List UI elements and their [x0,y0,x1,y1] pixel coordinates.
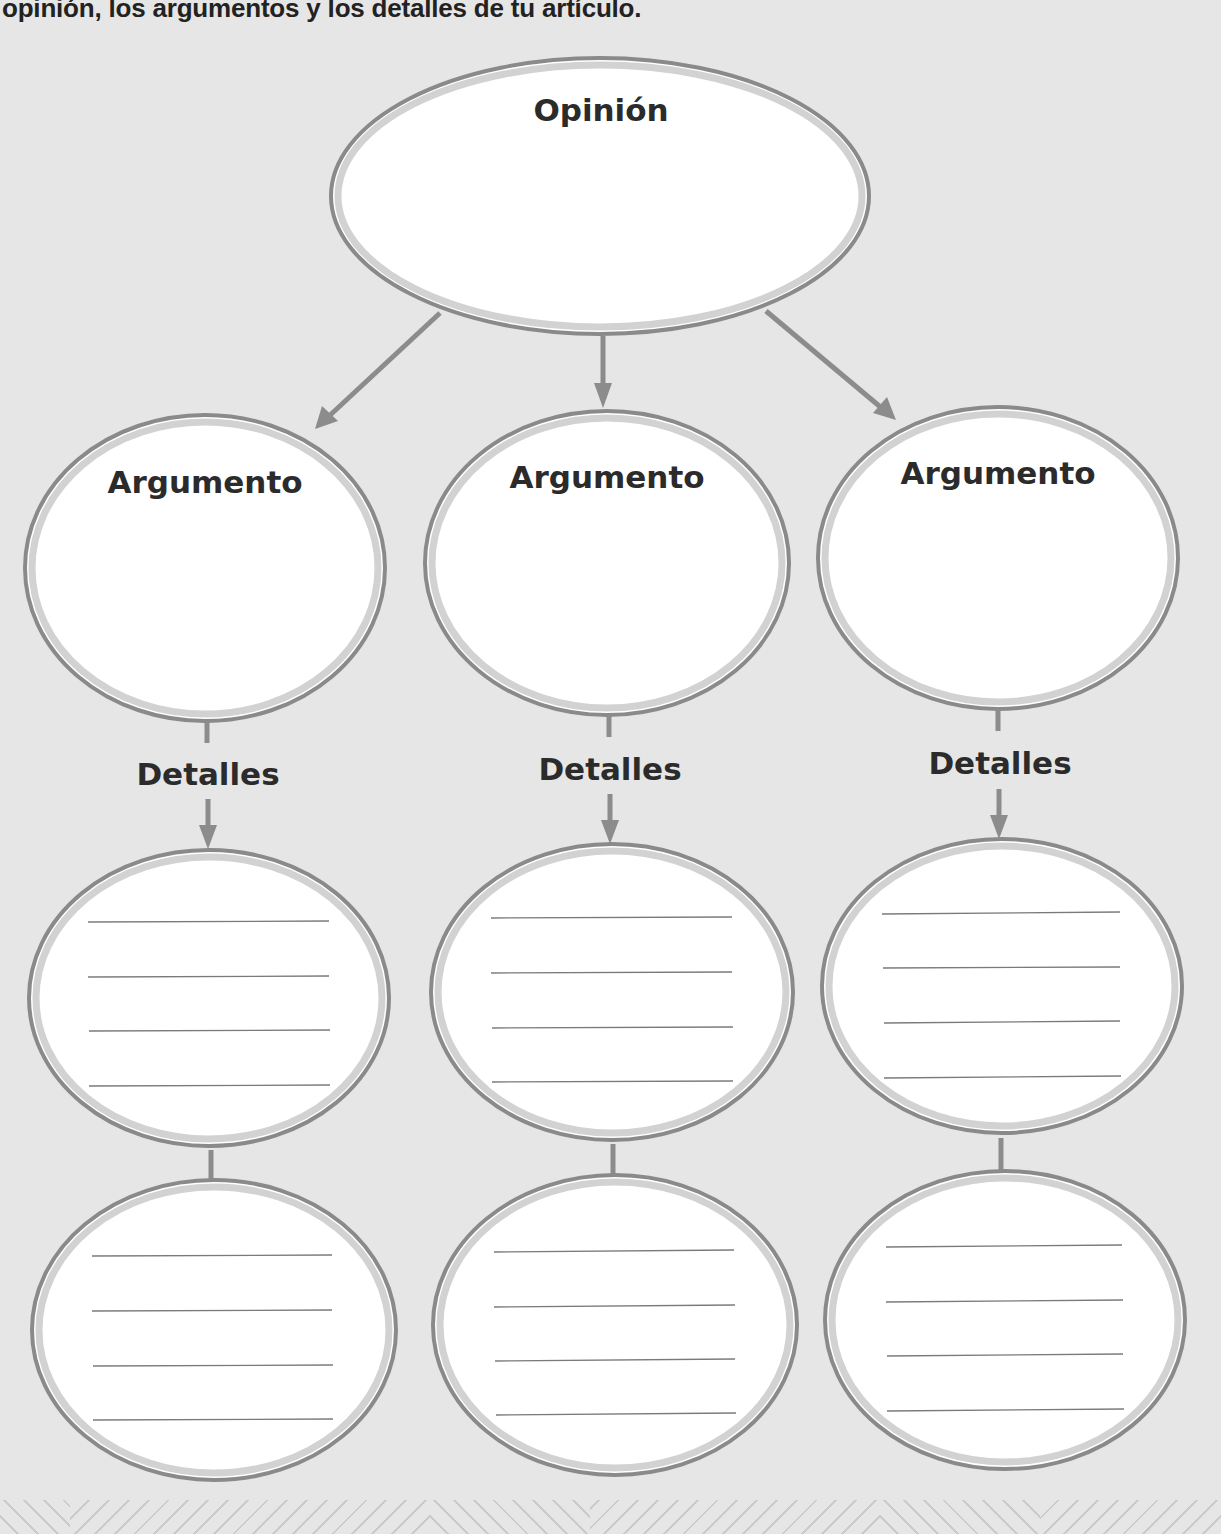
graphic-organizer: Opinión Argumento Detalles [0,0,1221,1534]
detail-bubble-1a[interactable] [29,850,389,1146]
opinion-label: Opinión [533,92,668,128]
decorative-hatch-border [0,1500,1221,1534]
hatch-segment [1040,1500,1221,1534]
arrow-opinion-to-argument-3 [766,311,896,420]
details-label-1: Detalles [136,756,279,792]
detail-bubble-3a[interactable] [822,839,1182,1133]
detail-bubble-3b[interactable] [825,1171,1185,1469]
hatch-segment [590,1500,880,1534]
details-label-3: Detalles [928,745,1071,781]
arrow-opinion-to-argument-1 [315,313,440,429]
argument-bubble-1[interactable]: Argumento [25,415,385,721]
hatch-segment [70,1500,430,1534]
argument-bubble-2[interactable]: Argumento [425,411,789,715]
arrow-details-3 [990,789,1008,839]
arrow-details-2 [601,794,619,844]
argument-label-2: Argumento [509,459,704,495]
detail-bubble-2a[interactable] [431,844,793,1140]
opinion-bubble[interactable]: Opinión [331,58,869,334]
detail-bubble-2b[interactable] [433,1175,797,1475]
detail-bubble-1b[interactable] [32,1180,396,1480]
argument-bubble-3[interactable]: Argumento [818,407,1178,709]
argument-label-1: Argumento [107,464,302,500]
hatch-segment [0,1500,70,1534]
arrow-details-1 [199,799,217,849]
details-label-2: Detalles [538,751,681,787]
hatch-segment [430,1500,590,1534]
arrow-opinion-to-argument-2 [594,336,612,408]
argument-label-3: Argumento [900,455,1095,491]
hatch-segment [880,1500,1040,1534]
